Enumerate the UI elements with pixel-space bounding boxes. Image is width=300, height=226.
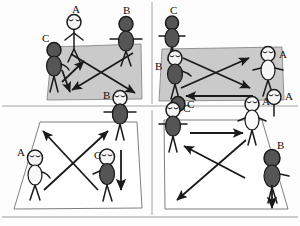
label-b-top-right: B <box>155 61 162 72</box>
label-a-top-right: A <box>279 49 287 60</box>
label-c-bottom-left: C <box>94 150 101 161</box>
label-c-bottom-right: C <box>183 103 190 114</box>
panel-bottom-right <box>159 97 289 210</box>
label-b-bottom-right: B <box>277 140 284 151</box>
panel-top-left <box>47 15 143 125</box>
label-b-top-left: B <box>123 5 130 16</box>
label-a2-top-right: A <box>285 91 293 102</box>
diagram-canvas: A B C B C B A A C A C C A B <box>0 0 300 226</box>
label-b2-top-left: B <box>103 90 110 101</box>
label-c-top-left: C <box>42 33 49 44</box>
label-a-bottom-left: A <box>17 147 25 158</box>
label-a-top-left: A <box>72 4 80 15</box>
label-c-top-right: C <box>170 5 177 16</box>
label-a-bottom-right: A <box>262 96 270 107</box>
panel-bottom-left <box>14 104 142 209</box>
